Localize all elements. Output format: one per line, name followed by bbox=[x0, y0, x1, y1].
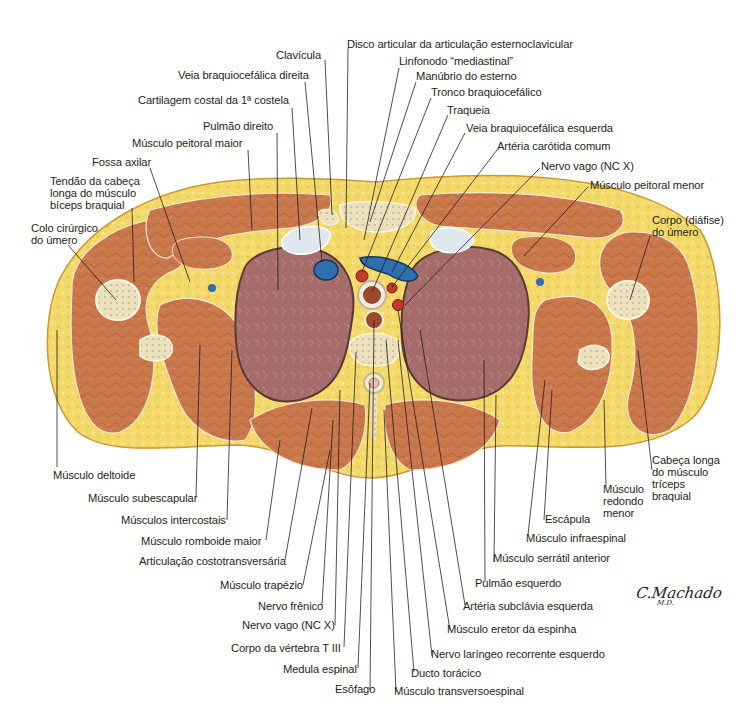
label-pulmao-direito: Pulmão direito bbox=[203, 120, 273, 133]
spinal-cord bbox=[369, 378, 379, 388]
label-musculo-trapezio: Músculo trapézio bbox=[220, 579, 303, 592]
label-nervo-laringeo: Nervo laríngeo recorrente esquerdo bbox=[431, 648, 605, 661]
label-fossa-axilar: Fossa axilar bbox=[92, 156, 151, 169]
scapula-left bbox=[140, 335, 172, 361]
label-musculo-romboide: Músculo romboide maior bbox=[141, 535, 261, 548]
label-nervo-vago-top: Nervo vago (NC X) bbox=[541, 160, 634, 173]
label-arteria-carotida: Artéria carótida comum bbox=[497, 140, 610, 153]
back-muscles-right bbox=[384, 400, 500, 470]
label-musculos-intercostais: Músculos intercostais bbox=[121, 514, 226, 527]
label-escapula: Escápula bbox=[545, 513, 590, 526]
label-medula-espinal: Medula espinal bbox=[283, 663, 357, 676]
label-esofago: Esôfago bbox=[335, 683, 375, 696]
label-musculo-deltoide: Músculo deltoide bbox=[53, 469, 135, 482]
costal-cartilage-left bbox=[430, 228, 474, 253]
humerus-left bbox=[96, 280, 140, 320]
label-nervo-frenico: Nervo frênico bbox=[258, 600, 323, 613]
subclavian-artery-left bbox=[393, 300, 404, 311]
label-pulmao-esquerdo: Pulmão esquerdo bbox=[475, 577, 561, 590]
vertebral-body bbox=[350, 333, 401, 366]
label-ducto-toracico: Ducto torácico bbox=[411, 667, 481, 680]
artist-signature: C.MachadoM.D. bbox=[634, 584, 723, 607]
label-tronco-braquiocefalico: Tronco braquiocefálico bbox=[431, 86, 542, 99]
label-musculo-subescapular: Músculo subescapular bbox=[88, 492, 197, 505]
label-musculo-infraespinal: Músculo infraespinal bbox=[526, 532, 626, 545]
label-corpo-vertebra: Corpo da vértebra T III bbox=[231, 642, 341, 655]
common-carotid-artery bbox=[387, 283, 397, 293]
cross-section-illustration bbox=[0, 0, 746, 726]
label-musculo-peitoral-maior: Músculo peitoral maior bbox=[132, 137, 242, 150]
trachea-lumen bbox=[363, 286, 381, 304]
label-arteria-subclavia: Artéria subclávia esquerda bbox=[463, 600, 593, 613]
label-colo-cirurgico: Colo cirúrgico do úmero bbox=[31, 222, 98, 246]
label-musculo-peitoral-menor: Músculo peitoral menor bbox=[590, 179, 704, 192]
label-articulacao-costotransversaria: Articulação costotransversária bbox=[139, 555, 286, 568]
label-nervo-vago-bottom: Nervo vago (NC X) bbox=[242, 619, 335, 632]
label-veia-braquiocefalica-esquerda: Veia braquiocefálica esquerda bbox=[466, 122, 613, 135]
label-cabeca-longa-triceps: Cabeça longa do músculo tríceps braquial bbox=[652, 454, 720, 502]
label-musculo-serratil: Músculo serrátil anterior bbox=[493, 552, 610, 565]
label-disco-articular: Disco articular da articulação esternocl… bbox=[347, 38, 573, 51]
humerus-right bbox=[607, 281, 649, 319]
label-musculo-redondo-menor: Músculo redondo menor bbox=[603, 483, 644, 519]
brachiocephalic-vein-right bbox=[314, 260, 338, 280]
label-musculo-transversoespinal: Músculo transversoespinal bbox=[394, 685, 524, 698]
label-traqueia: Traqueia bbox=[447, 104, 490, 117]
lung-left-anatomical bbox=[401, 247, 528, 400]
label-manubrio: Manúbrio do esterno bbox=[416, 70, 517, 83]
vena-left-axillary bbox=[536, 278, 544, 286]
label-veia-braquiocefalica-direita: Veia braquiocefálica direita bbox=[178, 69, 309, 82]
label-musculo-eretor: Músculo eretor da espinha bbox=[447, 623, 576, 636]
label-tendao-biceps: Tendão da cabeça longa do músculo bíceps… bbox=[50, 175, 140, 211]
scapula-right bbox=[578, 346, 609, 370]
label-cartilagem-costal: Cartilagem costal da 1ª costela bbox=[138, 94, 289, 107]
label-linfonodo: Linfonodo “mediastinal” bbox=[399, 55, 513, 68]
back-muscles-left bbox=[250, 400, 366, 470]
label-clavicula: Clavícula bbox=[276, 49, 321, 62]
vena-right-axillary bbox=[208, 284, 216, 292]
label-corpo-umero: Corpo (diáfise) do úmero bbox=[652, 214, 724, 238]
